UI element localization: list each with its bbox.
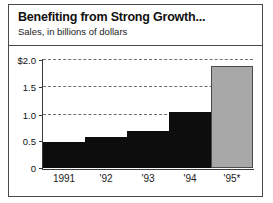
y-tickmark — [39, 115, 43, 116]
y-tick-label: $2.0 — [18, 55, 37, 66]
y-tickmark — [39, 168, 43, 169]
gridline-2-0: $2.0 — [43, 59, 253, 60]
y-tickmark — [39, 87, 43, 88]
y-tick-label: 0 — [31, 163, 36, 174]
bar-1991 — [43, 142, 85, 168]
x-tick-label-94: '94 — [169, 173, 211, 184]
plot-region: $2.0 1.5 1.0 0.5 0 — [9, 46, 262, 196]
chart-subtitle: Sales, in billions of dollars — [18, 26, 262, 38]
x-tick-label-95: '95* — [211, 173, 253, 184]
x-tick-label-92: '92 — [85, 173, 127, 184]
x-axis-line — [42, 169, 254, 170]
plot-area: $2.0 1.5 1.0 0.5 0 — [43, 59, 253, 168]
y-tick-label: 1.0 — [23, 109, 36, 120]
x-tick-label-1991: 1991 — [43, 173, 85, 184]
bar-93 — [127, 131, 169, 168]
page-title: Benefiting from Strong Growth... — [18, 10, 262, 24]
chart-figure: Benefiting from Strong Growth... Sales, … — [8, 4, 263, 197]
y-tickmark — [39, 60, 43, 61]
bar-95-estimate — [211, 66, 253, 168]
bar-94 — [169, 112, 211, 168]
y-tick-label: 1.5 — [23, 82, 36, 93]
chart-header: Benefiting from Strong Growth... Sales, … — [9, 5, 262, 46]
y-tick-label: 0.5 — [23, 135, 36, 146]
x-tick-label-93: '93 — [127, 173, 169, 184]
bar-92 — [85, 137, 127, 168]
